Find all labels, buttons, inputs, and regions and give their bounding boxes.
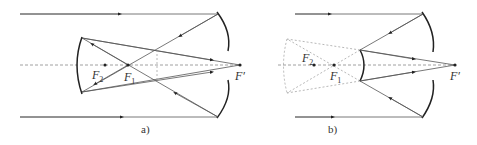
diagram-a: F2 F1 F′ a): [20, 12, 245, 136]
label-f1: F1: [329, 69, 341, 85]
caption-a: a): [141, 123, 150, 136]
primary-mirror-top: [422, 12, 434, 52]
label-fprime: F′: [449, 69, 460, 83]
diagram-b: F2 F1 F′ b): [278, 12, 460, 136]
focus-f1-dot: [332, 63, 335, 66]
secondary-mirror: [77, 37, 82, 94]
primary-mirror-top: [217, 12, 229, 51]
caption-b: b): [328, 123, 338, 136]
label-f2: F2: [91, 68, 103, 84]
label-f2: F2: [301, 51, 313, 67]
virtual-cone: [284, 39, 361, 93]
label-fprime: F′: [234, 69, 245, 83]
optics-diagram: F2 F1 F′ a): [0, 0, 477, 145]
primary-mirror-bottom: [217, 80, 229, 118]
primary-mirror-bottom: [422, 80, 434, 118]
focus-fprime-dot: [453, 63, 456, 66]
focus-f1-dot: [126, 63, 129, 66]
secondary-mirror: [360, 50, 364, 81]
label-f1: F1: [123, 70, 135, 86]
focus-fprime-dot: [238, 63, 241, 66]
focus-f2-dot: [103, 63, 106, 66]
